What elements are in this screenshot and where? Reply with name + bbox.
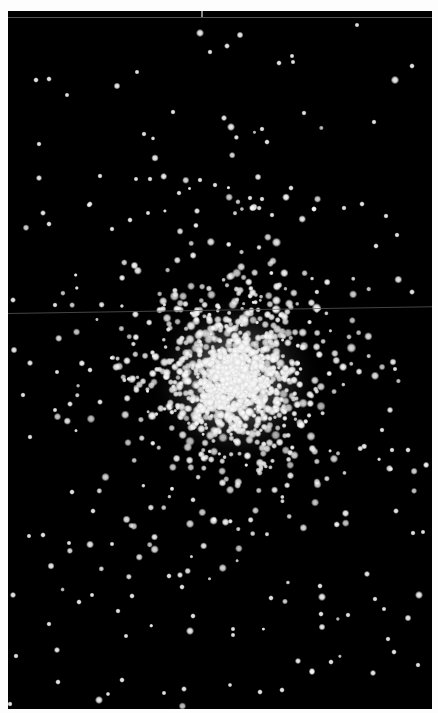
globular-cluster-photo: [8, 11, 432, 709]
star-field-frame: [8, 11, 432, 709]
image-canvas-page: [0, 0, 438, 713]
top-tick-mark: [201, 11, 203, 17]
top-seam-line: [8, 17, 432, 18]
